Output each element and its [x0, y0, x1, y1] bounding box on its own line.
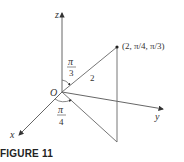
theta-denominator: 4 — [59, 117, 64, 127]
radius-label: 2 — [90, 73, 95, 83]
x-axis — [19, 92, 62, 135]
phi-denominator: 3 — [69, 68, 74, 78]
phi-numerator: π — [68, 56, 74, 67]
point-marker — [115, 45, 118, 48]
y-axis — [62, 92, 163, 109]
theta-arc — [55, 99, 71, 102]
spherical-coordinates-diagram: z y x O (2, π/4, π/3) 2 π 3 π 4 — [0, 0, 184, 162]
figure-caption: FIGURE 11 — [0, 148, 53, 159]
point-label: (2, π/4, π/3) — [122, 41, 165, 51]
z-axis-label: z — [54, 9, 59, 20]
theta-numerator: π — [58, 104, 64, 115]
phi-arc — [62, 80, 70, 85]
origin-label: O — [50, 87, 57, 98]
y-axis-label: y — [154, 111, 160, 122]
x-axis-label: x — [9, 129, 15, 140]
